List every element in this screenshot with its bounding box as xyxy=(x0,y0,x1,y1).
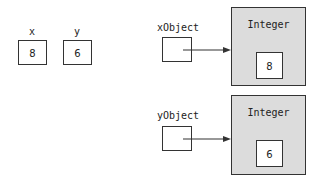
memory-diagram: x 8 y 6 xObject Integer 8 yObject Intege… xyxy=(0,0,327,184)
arrow-xobject-to-integer xyxy=(183,47,231,53)
arrow-yobject-to-integer xyxy=(183,136,231,142)
reference-arrows xyxy=(0,0,327,184)
